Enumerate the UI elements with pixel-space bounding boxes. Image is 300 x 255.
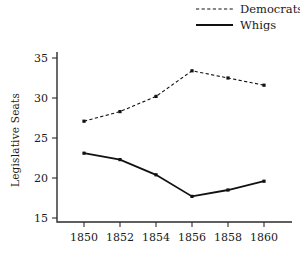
line-chart: 35 30 25 20 15 Legislative Seats 1850 18…	[0, 0, 300, 255]
x-tick-label: 1858	[214, 231, 242, 244]
data-point-democrats-1850	[82, 120, 85, 123]
y-tick-label: 30	[34, 92, 48, 105]
data-point-democrats-1852	[118, 110, 121, 113]
x-tick-label: 1852	[106, 231, 134, 244]
data-point-democrats-1854	[154, 95, 157, 98]
x-tick-label: 1850	[70, 231, 98, 244]
data-point-democrats-1860	[262, 84, 265, 87]
data-point-whigs-1854	[154, 173, 157, 176]
x-tick-label: 1854	[142, 231, 170, 244]
data-point-whigs-1860	[262, 180, 265, 183]
x-tick-label: 1856	[178, 231, 206, 244]
y-axis-title: Legislative Seats	[9, 93, 21, 187]
chart-container: 35 30 25 20 15 Legislative Seats 1850 18…	[0, 0, 300, 255]
y-tick-label: 20	[34, 172, 48, 185]
legend-label-whigs: Whigs	[240, 18, 276, 32]
data-point-democrats-1858	[226, 76, 229, 79]
data-point-whigs-1850	[82, 152, 85, 155]
data-point-democrats-1856	[190, 69, 193, 72]
y-tick-label: 35	[34, 52, 48, 65]
legend-label-democrats: Democrats	[240, 2, 300, 16]
x-tick-label: 1860	[250, 231, 278, 244]
y-tick-label: 25	[34, 132, 48, 145]
data-point-whigs-1856	[190, 195, 193, 198]
data-point-whigs-1858	[226, 188, 229, 191]
data-point-whigs-1852	[118, 158, 121, 161]
y-tick-label: 15	[34, 212, 48, 225]
